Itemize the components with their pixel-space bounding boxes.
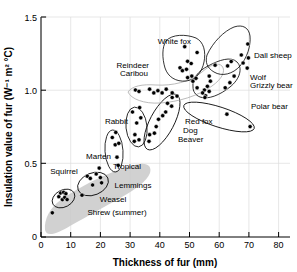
x-tick-label: 70 [244,240,254,250]
y-tick-label: 1.0 [24,86,37,96]
x-tick-label: 30 [125,240,135,250]
x-tick-label: 10 [66,240,76,250]
y-tick-label: 1.5 [24,13,37,23]
annotation-dog: Dog [183,126,198,135]
x-tick-labels: 0 10 20 30 40 50 60 70 80 [38,240,283,250]
annotation-grizzly-bear: Grizzly bear [250,81,293,90]
annotation-rabbit: Rabbit [105,117,129,126]
annotation-tropical: Tropical [113,162,141,171]
annotation-weasel: Weasel [100,195,127,204]
x-tick-label: 60 [214,240,224,250]
annotation-dall-sheep: Dall sheep [254,51,292,60]
annotation-marten: Marten [86,152,111,161]
x-tick-label: 50 [184,240,194,250]
x-axis-title: Thickness of fur (mm) [113,257,217,268]
annotation-lemmings: Lemmings [115,181,152,190]
annotation-beaver: Beaver [178,135,204,144]
x-tick-label: 20 [95,240,105,250]
annotation-red-fox: Red fox [185,117,213,126]
fur-insulation-scatter-chart: White fox Dall sheep Reindeer Caribou Wo… [0,0,297,272]
x-tick-label: 40 [155,240,165,250]
cluster-outlines [49,26,257,212]
annotation-polar-bear: Polar bear [251,102,288,111]
y-tick-label: 0.5 [24,159,37,169]
x-tick-label: 0 [38,240,43,250]
y-tick-labels: 0 0.5 1.0 1.5 [24,13,37,243]
annotation-shrew-summer: Shrew (summer) [87,208,146,217]
y-tick-label: 0 [32,232,37,242]
x-tick-label: 80 [274,240,284,250]
annotation-white-fox: White fox [158,37,191,46]
annotation-caribou: Caribou [120,69,148,78]
chart-canvas: White fox Dall sheep Reindeer Caribou Wo… [0,0,297,272]
y-axis-title: Insulation value of fur (W⁻¹ m² °C) [3,47,14,207]
annotation-squirrel: Squirrel [50,167,78,176]
